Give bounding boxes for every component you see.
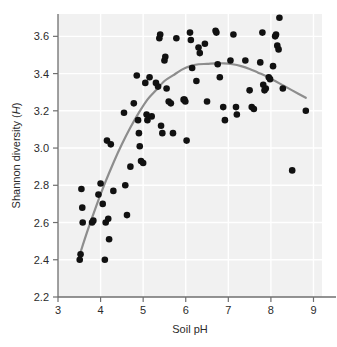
data-point [273,31,280,38]
data-point [157,31,164,38]
data-point [173,35,180,42]
data-point [182,98,189,105]
x-tick-label: 7 [225,304,231,316]
data-point [146,74,153,81]
data-point [108,141,115,148]
data-point [79,204,86,211]
data-point [136,130,143,137]
data-point [193,78,200,85]
data-point [159,130,166,137]
data-point [77,251,84,258]
x-axis-title: Soil pH [172,323,208,335]
y-axis-title-suffix: ) [10,103,22,107]
data-point [259,29,266,36]
data-point [155,83,162,90]
chart-canvas: 3456789 2.22.42.62.83.03.23.43.6 Soil pH… [0,0,337,347]
x-tick-label: 5 [140,304,146,316]
x-tick-label: 9 [310,304,316,316]
data-point [122,182,129,189]
data-point [227,57,234,64]
data-point [79,219,86,226]
data-point [262,85,269,92]
y-axis-title-prefix: Shannon diversity ( [10,114,22,208]
y-tick-label: 3.2 [34,105,49,117]
data-point [121,109,128,116]
y-tick-label: 2.8 [34,179,49,191]
data-point [95,191,102,198]
y-axis-title: Shannon diversity (H) [10,103,22,209]
x-tick-label: 3 [55,304,61,316]
plot-area-background [58,14,322,297]
data-point [97,180,104,187]
data-point [242,57,249,64]
scatter-plot-figure: 3456789 2.22.42.62.83.03.23.43.6 Soil pH… [0,0,337,347]
data-point [217,74,224,81]
y-tick-label: 3.4 [34,68,49,80]
data-point [267,76,274,83]
data-point [170,130,177,137]
data-point [280,85,287,92]
y-tick-label: 3.0 [34,142,49,154]
data-point [136,143,143,150]
data-point [246,87,253,94]
data-point [99,201,106,208]
data-point [275,46,282,53]
data-point [202,40,209,47]
data-point [162,54,169,61]
data-point [257,59,264,66]
data-point [140,160,147,167]
y-tick-label: 2.2 [34,291,49,303]
y-tick-label: 2.4 [34,254,49,266]
data-point [135,117,142,124]
data-point [127,163,134,170]
data-point [270,63,277,70]
x-tick-label: 6 [183,304,189,316]
data-point [142,80,149,87]
data-point [133,72,140,79]
data-point [163,85,170,92]
data-point [188,37,195,44]
data-point [183,137,190,144]
data-point [303,108,310,115]
data-point [195,44,202,51]
data-point [233,104,240,111]
data-point [90,217,97,224]
data-point [289,167,296,174]
data-point [276,14,283,21]
data-point [78,186,85,193]
data-point [189,65,196,72]
data-point [158,122,165,129]
y-tick-label: 2.6 [34,217,49,229]
y-axis-title-symbol: H [10,106,22,114]
data-point [222,117,229,124]
x-tick-label: 4 [98,304,104,316]
data-point [220,104,227,111]
data-point [230,31,237,38]
data-point [251,106,258,113]
data-point [110,188,117,195]
data-point [148,113,155,120]
y-tick-label: 3.6 [34,30,49,42]
data-point [124,212,131,219]
data-point [168,100,175,107]
data-point [106,236,113,243]
data-point [105,216,112,223]
data-point [76,256,83,263]
data-point [213,29,220,36]
data-point [196,50,203,57]
data-point [214,61,221,68]
data-point [187,29,194,36]
x-tick-label: 8 [268,304,274,316]
data-point [234,111,241,118]
y-axis-title-text: Shannon diversity (H) [10,103,22,209]
data-point [102,256,109,263]
data-point [130,100,137,107]
data-point [204,98,211,105]
